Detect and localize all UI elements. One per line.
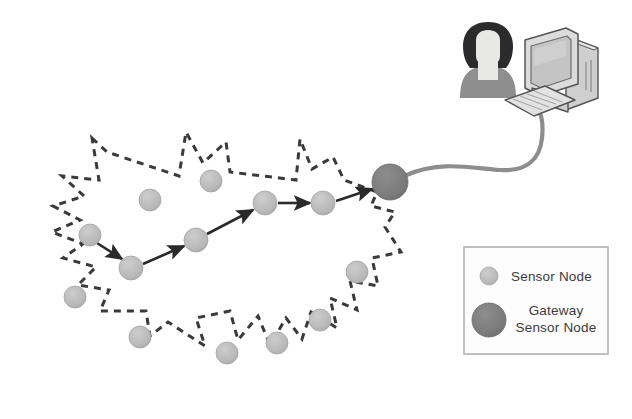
route-arrow-hop5 <box>336 189 372 201</box>
gateway-to-computer-cable <box>404 106 543 176</box>
legend-item-gateway-node: Gateway Sensor Node <box>472 303 597 337</box>
sensor-node[interactable] <box>184 228 208 252</box>
route-arrow-hop3 <box>207 210 253 234</box>
legend-gateway-node-label-line2: Sensor Node <box>516 320 597 335</box>
desktop-computer-icon <box>505 28 598 116</box>
sensor-node[interactable] <box>266 332 288 354</box>
network-diagram-svg: Sensor Node Gateway Sensor Node <box>0 0 632 419</box>
sensor-node[interactable] <box>64 286 86 308</box>
legend-gateway-node-label-line1: Gateway <box>529 303 584 318</box>
sensor-field-boundary <box>52 132 401 346</box>
gateway-sensor-node[interactable] <box>372 164 408 200</box>
route-arrow-hop1 <box>97 243 122 259</box>
legend-box: Sensor Node Gateway Sensor Node <box>464 247 608 354</box>
route-arrow-hop2 <box>143 246 184 264</box>
sensor-node[interactable] <box>346 261 368 283</box>
sensor-node[interactable] <box>200 170 222 192</box>
sensor-node[interactable] <box>129 326 151 348</box>
sensor-node[interactable] <box>79 224 101 246</box>
sensor-node[interactable] <box>139 189 161 211</box>
legend-sensor-node-label: Sensor Node <box>511 269 592 284</box>
legend-background <box>464 247 608 354</box>
legend-gateway-node-swatch <box>472 303 506 337</box>
sensor-node[interactable] <box>253 191 277 215</box>
diagram-canvas: Sensor Node Gateway Sensor Node <box>0 0 632 419</box>
sensor-node[interactable] <box>216 342 238 364</box>
sensor-node[interactable] <box>311 191 335 215</box>
user-person-icon <box>460 22 516 98</box>
legend-sensor-node-swatch <box>480 267 498 285</box>
sensor-node[interactable] <box>119 256 143 280</box>
sensor-node[interactable] <box>309 309 331 331</box>
sensor-nodes-group <box>64 170 368 364</box>
